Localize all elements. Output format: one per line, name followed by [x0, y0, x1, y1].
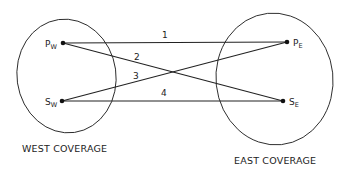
link-3-label: 3: [133, 71, 139, 81]
west-coverage-caption: WEST COVERAGE: [22, 143, 107, 154]
link-3: [62, 42, 287, 101]
west-coverage-region: [10, 13, 124, 140]
link-1-label: 1: [162, 30, 168, 40]
coverage-diagram: PW SW PE SE 1 2 3 4 WEST COVERAGE EAST C…: [0, 0, 348, 171]
node-se-dot: [281, 99, 286, 104]
node-pe-label: PE: [293, 38, 303, 50]
node-pe-dot: [285, 40, 290, 45]
node-se-label: SE: [289, 97, 299, 109]
link-2-label: 2: [134, 52, 140, 62]
node-pw-dot: [61, 41, 66, 46]
east-coverage-caption: EAST COVERAGE: [234, 155, 316, 166]
node-sw-label: SW: [45, 97, 58, 109]
link-4-label: 4: [161, 88, 167, 98]
link-1: [63, 42, 287, 43]
node-pw-label: PW: [45, 39, 57, 51]
node-sw-dot: [60, 99, 65, 104]
east-coverage-region: [209, 7, 339, 151]
